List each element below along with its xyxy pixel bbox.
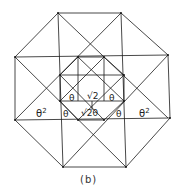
label-theta-upper-right: θ (109, 94, 115, 103)
label-sqrt2-top: √2 (87, 92, 98, 101)
label-theta-upper-left: θ (69, 94, 75, 103)
outer-octagon (15, 13, 170, 167)
label-theta-lower-left: θ (63, 110, 69, 119)
label-theta-squared-right: θ2 (139, 109, 150, 119)
exponent: 2 (42, 107, 46, 115)
label-theta-squared-left: θ2 (36, 109, 47, 119)
label-theta-lower-right: θ (116, 110, 122, 119)
label-sqrt2-theta-bottom: √2θ (81, 109, 98, 118)
exponent: 2 (145, 107, 149, 115)
figure-caption: (b) (80, 174, 97, 185)
